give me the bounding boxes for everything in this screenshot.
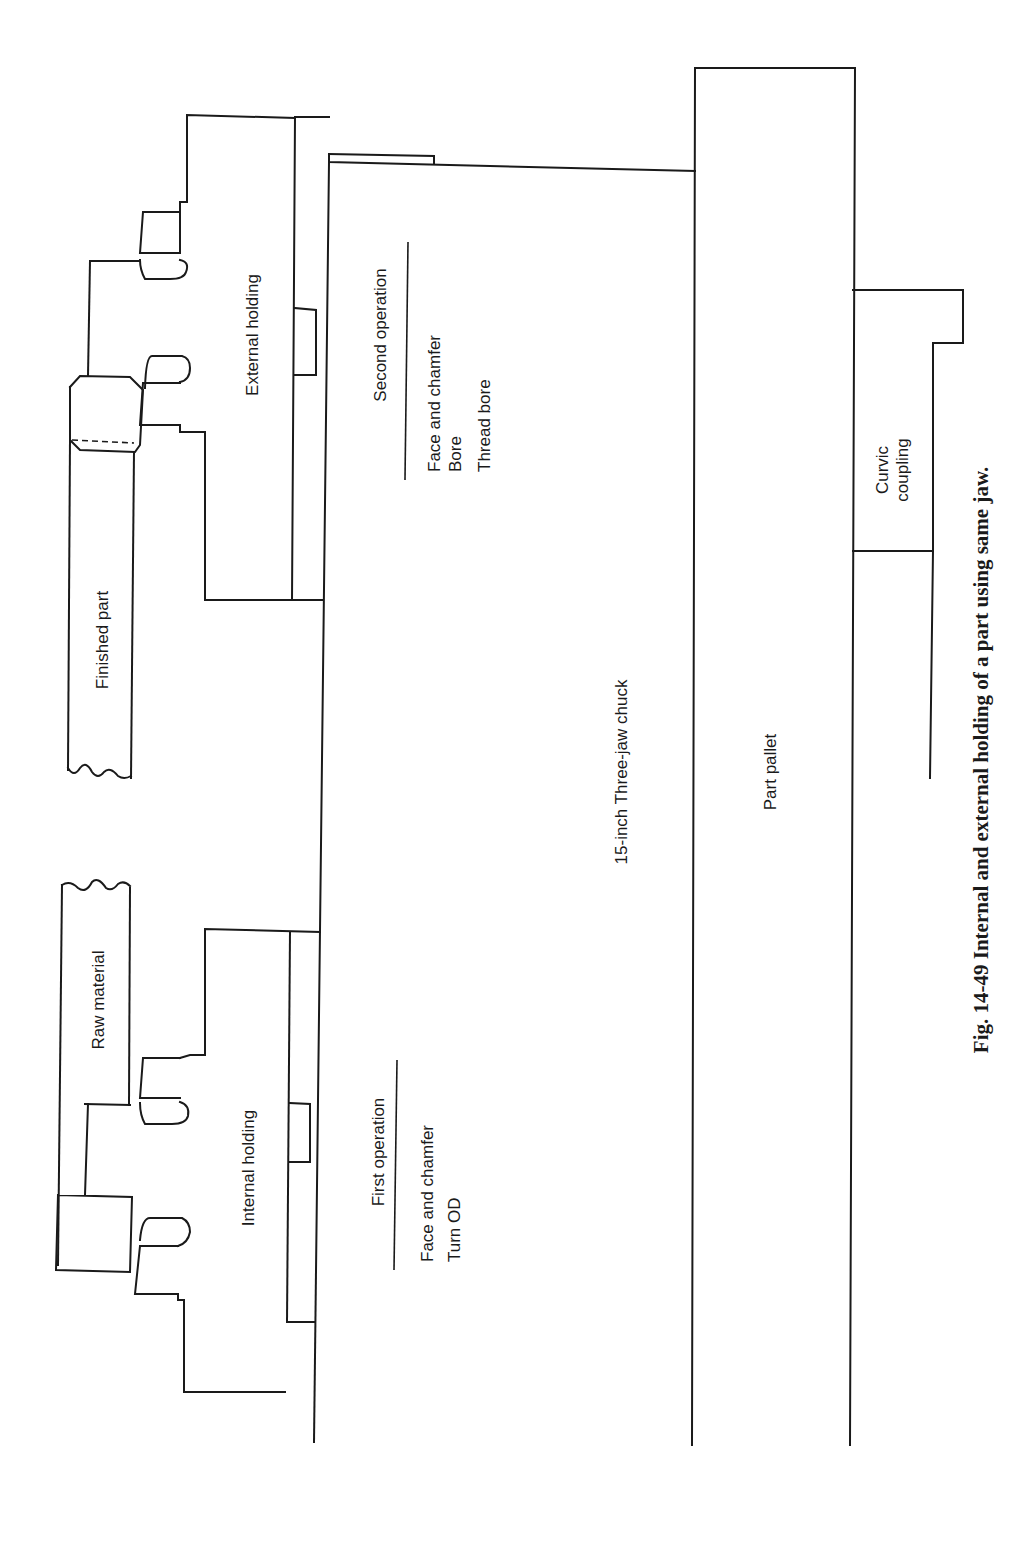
curvic-coupling-label-line2: coupling [893, 438, 912, 501]
finished-part [68, 376, 143, 778]
internal-holding-jaw [135, 929, 320, 1392]
raw-material [56, 880, 132, 1272]
first-operation-note: First operation Face and chamfer Turn OD [369, 1060, 464, 1270]
curvic-coupling-label-line1: Curvic [873, 445, 892, 494]
second-operation-step-2: Bore [446, 436, 465, 472]
internal-holding-label: Internal holding [239, 1110, 258, 1226]
fixture-diagram: Finished part Raw material External hold… [0, 0, 1020, 1554]
second-operation-step-3: Thread bore [475, 379, 494, 472]
second-operation-note: Second operation Face and chamfer Bore T… [371, 242, 494, 480]
second-operation-step-1: Face and chamfer [425, 335, 444, 472]
chuck-label: 15-inch Three-jaw chuck [612, 679, 631, 864]
external-holding-jaw [88, 115, 329, 600]
part-pallet-label: Part pallet [761, 733, 780, 810]
figure-caption: Fig. 14-49 Internal and external holding… [969, 467, 993, 1053]
external-holding-label: External holding [243, 274, 262, 396]
raw-material-label: Raw material [89, 950, 108, 1049]
first-operation-step-2: Turn OD [445, 1197, 464, 1262]
second-operation-title: Second operation [371, 268, 390, 401]
curvic-coupling [853, 290, 963, 778]
finished-part-label: Finished part [93, 591, 112, 690]
first-operation-step-1: Face and chamfer [418, 1125, 437, 1262]
first-operation-title: First operation [369, 1098, 388, 1207]
